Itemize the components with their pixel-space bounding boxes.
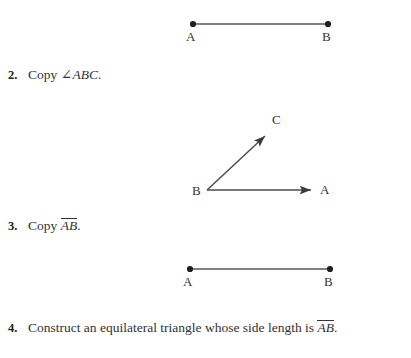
endpoint-dot-b [325,21,331,27]
problem-4-prefix: Construct an equilateral triangle whose … [28,320,317,335]
angle-abc-drawing [0,100,411,210]
ray-label-c: C [272,113,281,126]
point-label-b: B [324,275,333,288]
problem-4-number: 4. [8,321,28,336]
segment-ab-bottom-drawing [0,245,411,293]
point-label-b: B [322,30,331,43]
problem-2-suffix: . [98,67,101,82]
problem-3-prefix: Copy [28,218,61,233]
problem-2: 2. Copy ∠ABC. [8,66,101,83]
angle-symbol-icon: ∠ [61,67,73,82]
problem-2-prefix: Copy [28,67,61,82]
point-label-a: A [183,275,192,288]
problem-4-text: Construct an equilateral triangle whose … [28,320,337,336]
figure-segment-ab-top: A B [0,0,411,48]
vertex-label-b: B [192,184,201,197]
problem-2-text: Copy ∠ABC. [28,66,101,83]
problem-3-math-overline: AB [61,218,78,233]
problem-2-number: 2. [8,68,28,83]
problem-3-suffix: . [77,218,80,233]
problem-4: 4. Construct an equilateral triangle who… [8,320,337,336]
worksheet-page: A B 2. Copy ∠ABC. B A C 3. Copy AB. [0,0,411,358]
figure-segment-ab-bottom: A B [0,245,411,293]
endpoint-dot-a [187,266,193,272]
segment-ab-top-drawing [0,0,411,48]
problem-4-math-overline: AB [317,320,334,335]
figure-angle-abc: B A C [0,100,411,210]
endpoint-dot-a [190,21,196,27]
problem-3-number: 3. [8,219,28,234]
endpoint-dot-b [327,266,333,272]
problem-2-math: ABC [72,67,98,82]
problem-3-text: Copy AB. [28,218,81,234]
point-label-a: A [186,30,195,43]
ray-bc [207,136,265,190]
problem-3: 3. Copy AB. [8,218,81,234]
problem-4-suffix: . [334,320,337,335]
ray-label-a: A [320,183,329,196]
